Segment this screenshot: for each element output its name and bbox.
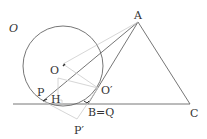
point-p-label: P — [37, 86, 45, 99]
vertex-a-label: A — [133, 9, 143, 22]
geometry-diagram: O O A C P H O′ B=Q P′ — [0, 0, 207, 139]
segment-oo-prime — [63, 64, 98, 88]
point-p-prime-label: P′ — [74, 124, 84, 137]
point-o-prime-label: O′ — [101, 84, 113, 97]
point-h-label: H — [51, 93, 61, 106]
circle-label: O — [9, 22, 18, 35]
segment-ao — [63, 22, 138, 64]
vertex-c-label: C — [190, 107, 198, 120]
segment-ap — [43, 22, 138, 101]
point-bq-label: B=Q — [88, 106, 114, 119]
segment-ac — [138, 22, 190, 104]
p-mark — [43, 99, 47, 101]
center-label: O — [50, 64, 59, 77]
